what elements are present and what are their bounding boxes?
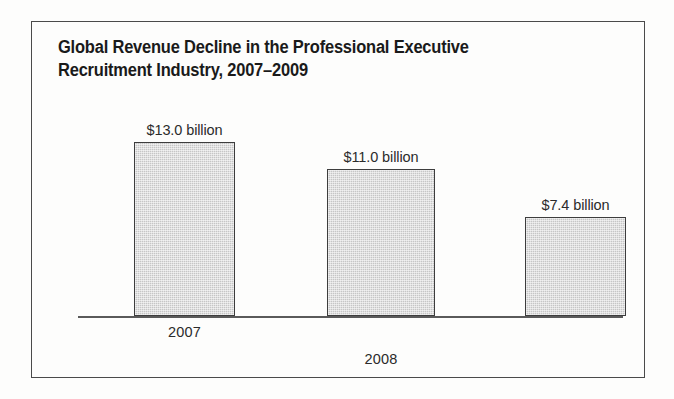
bar-category-label-2008: 2008 xyxy=(295,351,467,367)
bar-rect-2008[interactable] xyxy=(327,169,435,316)
bar-value-label-2009: $7.4 billion xyxy=(493,197,658,213)
bar-rect-2007[interactable] xyxy=(134,142,235,316)
bar-group-2008[interactable]: $11.0 billion 2008 xyxy=(327,169,435,316)
bar-series: $13.0 billion 2007 $11.0 billion 2008 $7… xyxy=(78,142,623,316)
bar-category-label-2007: 2007 xyxy=(102,324,267,340)
bar-value-label-2007: $13.0 billion xyxy=(102,122,267,138)
plot-area: $13.0 billion 2007 $11.0 billion 2008 $7… xyxy=(32,22,646,379)
x-axis-line xyxy=(78,316,623,318)
bar-value-label-2008: $11.0 billion xyxy=(295,149,467,165)
figure-page: Global Revenue Decline in the Profession… xyxy=(0,0,674,399)
figure-frame: Global Revenue Decline in the Profession… xyxy=(31,21,645,378)
bar-group-2007[interactable]: $13.0 billion 2007 xyxy=(134,142,235,316)
bar-rect-2009[interactable] xyxy=(525,217,626,316)
bar-group-2009[interactable]: $7.4 billion 2009 xyxy=(525,217,626,316)
